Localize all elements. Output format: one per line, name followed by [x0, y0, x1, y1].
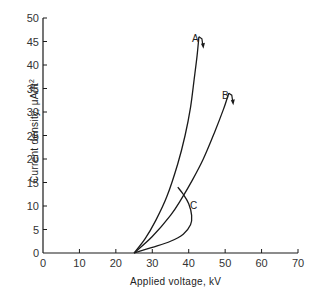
- x-tick-label: 50: [219, 257, 231, 269]
- axes: 01020304050607005101520253035404550: [27, 12, 304, 269]
- curve-labels: ABC: [190, 33, 229, 211]
- x-tick-label: 40: [183, 257, 195, 269]
- y-tick-label: 10: [27, 200, 39, 212]
- chart: 01020304050607005101520253035404550 ABC …: [0, 0, 316, 294]
- y-tick-label: 0: [33, 247, 39, 259]
- y-tick-label: 5: [33, 224, 39, 236]
- arrow-down-icon: [201, 43, 205, 49]
- curve-label-b: B: [222, 90, 229, 101]
- y-tick-label: 50: [27, 12, 39, 24]
- x-axis-title: Applied voltage, kV: [130, 276, 221, 287]
- y-axis-title-superscript: 2: [28, 79, 35, 83]
- y-axis-title: Current density, μA/ft2: [28, 79, 40, 183]
- curve-label-a: A: [192, 33, 199, 44]
- x-tick-label: 60: [255, 257, 267, 269]
- x-tick-label: 20: [110, 257, 122, 269]
- y-tick-label: 45: [27, 36, 39, 48]
- curves: [134, 37, 235, 253]
- y-tick-label: 40: [27, 59, 39, 71]
- x-tick-label: 10: [73, 257, 85, 269]
- curve-b: [134, 93, 229, 253]
- curve-label-c: C: [190, 200, 197, 211]
- x-tick-label: 0: [40, 257, 46, 269]
- x-tick-label: 30: [146, 257, 158, 269]
- y-axis-title-group: Current density, μA/ft2: [28, 79, 40, 183]
- x-tick-label: 70: [292, 257, 304, 269]
- arrow-down-icon: [231, 99, 235, 105]
